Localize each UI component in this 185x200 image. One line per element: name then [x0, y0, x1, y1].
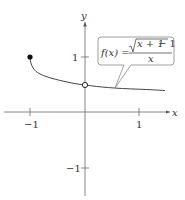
y-axis-label: y — [80, 10, 87, 21]
y-tick-label-1: 1 — [72, 52, 78, 63]
function-graph: x y −1 1 1 −1 f(x) = x + 1 − 1 x — [0, 0, 185, 200]
open-circle-hole — [82, 82, 87, 87]
callout-denominator: x — [148, 53, 154, 64]
y-tick-label-neg1: −1 — [66, 163, 81, 174]
callout-num-tail: − 1 — [158, 38, 176, 49]
filled-endpoint-dot — [27, 54, 32, 59]
callout-lhs: f(x) = — [100, 47, 130, 58]
x-tick-label-1: 1 — [136, 119, 142, 130]
x-axis-label: x — [172, 107, 178, 118]
function-callout: f(x) = x + 1 − 1 x — [98, 37, 176, 88]
x-tick-label-neg1: −1 — [24, 119, 39, 130]
